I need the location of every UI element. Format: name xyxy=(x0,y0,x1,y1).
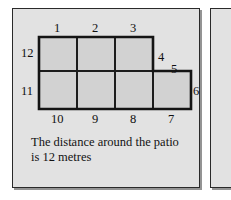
patio-caption: The distance around the patio is 12 metr… xyxy=(31,135,195,165)
patio-cell-top-3 xyxy=(115,37,153,71)
edge-label-5: 5 xyxy=(171,63,177,76)
caption-line-2: is 12 metres xyxy=(31,150,195,165)
screenshot-root: 1 2 3 4 5 6 7 8 9 10 11 12 The distance … xyxy=(0,0,231,200)
patio-panel: 1 2 3 4 5 6 7 8 9 10 11 12 The distance … xyxy=(12,8,200,188)
edge-label-3: 3 xyxy=(130,22,136,35)
edge-label-12: 12 xyxy=(21,47,34,60)
edge-label-9: 9 xyxy=(92,113,98,126)
edge-label-10: 10 xyxy=(51,113,64,126)
edge-label-4: 4 xyxy=(158,51,164,64)
edge-label-7: 7 xyxy=(168,113,174,126)
patio-cell-bottom-3 xyxy=(115,71,153,109)
patio-cell-bottom-2 xyxy=(77,71,115,109)
patio-cell-top-1 xyxy=(39,37,77,71)
next-panel-partial xyxy=(210,8,231,188)
edge-label-2: 2 xyxy=(92,22,98,35)
edge-label-11: 11 xyxy=(21,85,33,98)
patio-cell-bottom-1 xyxy=(39,71,77,109)
edge-label-6: 6 xyxy=(193,85,199,98)
edge-label-8: 8 xyxy=(130,113,136,126)
patio-diagram: 1 2 3 4 5 6 7 8 9 10 11 12 xyxy=(13,9,201,135)
patio-cell-bottom-4 xyxy=(153,71,191,109)
patio-cell-top-2 xyxy=(77,37,115,71)
edge-label-1: 1 xyxy=(54,22,60,35)
caption-line-1: The distance around the patio xyxy=(31,135,195,150)
